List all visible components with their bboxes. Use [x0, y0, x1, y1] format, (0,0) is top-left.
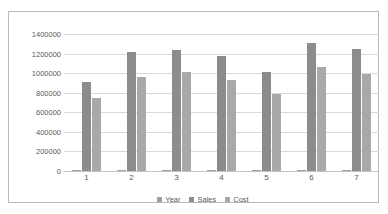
x-axis-tick-label: 7: [354, 174, 358, 182]
legend-swatch-icon: [189, 197, 194, 202]
chart-frame: 0200000400000600000800000100000012000001…: [8, 11, 379, 203]
bar-year: [342, 170, 351, 171]
y-axis-tick-label: 400000: [13, 129, 61, 137]
bar-sales: [307, 43, 316, 171]
x-axis-tick-label: 6: [309, 174, 313, 182]
bar-year: [162, 170, 171, 171]
bar-year: [252, 170, 261, 171]
bar-sales: [217, 56, 226, 171]
y-axis-tick-labels: 0200000400000600000800000100000012000001…: [9, 34, 61, 171]
bar-cost: [272, 94, 281, 171]
plot-area: [64, 34, 379, 171]
bar-group: [289, 34, 334, 171]
bar-cost: [182, 72, 191, 171]
bar-group: [244, 34, 289, 171]
legend-label: Sales: [197, 196, 216, 204]
y-axis-tick-label: 200000: [13, 148, 61, 156]
y-axis-tick-label: 1000000: [13, 70, 61, 78]
gridline: [64, 171, 379, 172]
legend-label: Cost: [233, 196, 248, 204]
x-axis-tick-labels: 1234567: [64, 174, 379, 188]
bar-year: [207, 170, 216, 171]
y-axis-tick-label: 800000: [13, 90, 61, 98]
y-axis-tick-label: 0: [13, 168, 61, 176]
bar-group: [109, 34, 154, 171]
bar-group: [154, 34, 199, 171]
bar-sales: [172, 50, 181, 171]
bar-cost: [92, 98, 101, 171]
chart-legend: YearSalesCost: [9, 196, 388, 204]
x-axis-tick-label: 5: [264, 174, 268, 182]
bar-cost: [362, 74, 371, 171]
bar-sales: [127, 52, 136, 171]
bar-group: [64, 34, 109, 171]
bar-year: [297, 170, 306, 171]
x-axis-tick-label: 2: [129, 174, 133, 182]
x-axis-tick-label: 1: [84, 174, 88, 182]
legend-swatch-icon: [157, 197, 162, 202]
y-axis-tick-label: 1200000: [13, 51, 61, 59]
bar-sales: [352, 49, 361, 171]
legend-item-year[interactable]: Year: [157, 196, 180, 204]
bar-year: [72, 170, 81, 171]
bar-group: [199, 34, 244, 171]
bar-cost: [137, 77, 146, 171]
bar-sales: [82, 82, 91, 171]
y-axis-tick-label: 600000: [13, 109, 61, 117]
bar-group: [334, 34, 379, 171]
bar-year: [117, 170, 126, 171]
bar-cost: [317, 67, 326, 171]
legend-item-cost[interactable]: Cost: [225, 196, 248, 204]
x-axis-tick-label: 4: [219, 174, 223, 182]
legend-item-sales[interactable]: Sales: [189, 196, 216, 204]
legend-label: Year: [165, 196, 180, 204]
x-axis-tick-label: 3: [174, 174, 178, 182]
legend-swatch-icon: [225, 197, 230, 202]
bar-cost: [227, 80, 236, 171]
bar-sales: [262, 72, 271, 171]
y-axis-tick-label: 1400000: [13, 31, 61, 39]
